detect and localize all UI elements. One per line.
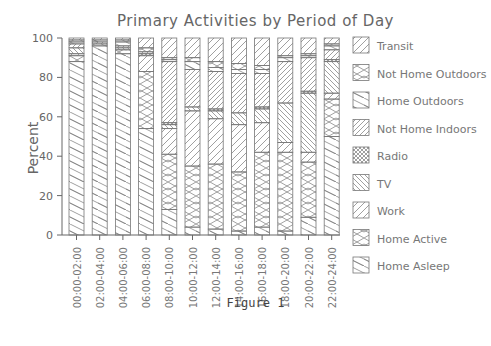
bar-segment xyxy=(231,172,246,231)
bar-segment xyxy=(255,152,270,227)
bar-segment xyxy=(162,38,177,58)
bar-segment xyxy=(162,154,177,209)
bar-00:00-02:00 xyxy=(69,38,84,235)
legend-item: Work xyxy=(353,202,405,218)
legend-item: Transit xyxy=(353,37,414,53)
bar-segment xyxy=(139,48,154,52)
bar-segment xyxy=(301,93,316,152)
bar-segment xyxy=(185,227,200,235)
bar-segment xyxy=(139,38,154,48)
legend-label: Home Outdoors xyxy=(377,95,464,108)
bar-segment xyxy=(185,107,200,111)
bar-segment xyxy=(208,62,223,68)
legend-item: Not Home Outdoors xyxy=(353,65,487,81)
bar-segment xyxy=(185,111,200,166)
bar-segment xyxy=(231,231,246,235)
y-tick-label: 20 xyxy=(39,190,53,203)
legend-swatch xyxy=(353,257,369,273)
bar-segment xyxy=(278,38,293,56)
bar-segment xyxy=(69,44,84,48)
bar-segment xyxy=(92,38,107,40)
bar-04:00-06:00 xyxy=(115,38,130,235)
bar-segment xyxy=(69,48,84,54)
bar-segment xyxy=(115,38,130,40)
bar-segment xyxy=(278,152,293,231)
legend-item: TV xyxy=(353,175,392,191)
bar-segment xyxy=(208,111,223,119)
bar-segment xyxy=(69,56,84,62)
legend-swatch xyxy=(353,92,369,108)
bar-segment xyxy=(324,99,339,136)
figure-caption: Figure 1 xyxy=(0,296,491,310)
bar-segment xyxy=(231,38,246,64)
bar-segment xyxy=(92,46,107,235)
legend-label: Work xyxy=(377,205,405,218)
bar-segment xyxy=(301,152,316,162)
bar-segment xyxy=(208,68,223,72)
bar-segment xyxy=(185,166,200,227)
bar-segment xyxy=(69,38,84,40)
bar-segment xyxy=(301,58,316,91)
legend-swatch xyxy=(353,202,369,218)
bar-segment xyxy=(185,38,200,58)
legend-item: Home Outdoors xyxy=(353,92,464,108)
bar-segment xyxy=(162,125,177,129)
legend-item: Home Asleep xyxy=(353,257,450,273)
bar-segment xyxy=(162,209,177,235)
bar-segment xyxy=(208,71,223,108)
legend-swatch xyxy=(353,175,369,191)
legend-swatch xyxy=(353,65,369,81)
plot-area: 02040608010000:00-02:0002:00-04:0004:00-… xyxy=(0,0,491,346)
bar-20:00-22:00 xyxy=(301,38,316,235)
bar-segment xyxy=(278,58,293,62)
legend-item: Not Home Indoors xyxy=(353,120,477,136)
bar-12:00-14:00 xyxy=(208,38,223,235)
bar-segment xyxy=(208,229,223,235)
bar-segment xyxy=(255,123,270,153)
bar-segment xyxy=(162,62,177,123)
y-tick-label: 0 xyxy=(46,229,53,242)
bar-segment xyxy=(231,70,246,74)
bar-segment xyxy=(255,70,270,74)
bar-segment xyxy=(115,42,130,46)
bar-16:00-18:00 xyxy=(255,38,270,235)
bar-segment xyxy=(324,46,339,50)
bar-segment xyxy=(301,38,316,54)
bar-segment xyxy=(278,142,293,152)
bar-segment xyxy=(324,137,339,236)
bar-segment xyxy=(231,113,246,125)
y-tick-label: 80 xyxy=(39,71,53,84)
legend-swatch xyxy=(353,120,369,136)
bar-segment xyxy=(278,103,293,142)
legend-label: Not Home Outdoors xyxy=(377,68,487,81)
y-tick-label: 60 xyxy=(39,111,53,124)
bar-segment xyxy=(231,125,246,172)
bar-segment xyxy=(231,64,246,70)
legend-item: Radio xyxy=(353,147,408,163)
bar-22:00-24:00 xyxy=(324,38,339,235)
legend-swatch xyxy=(353,37,369,53)
bar-06:00-08:00 xyxy=(139,38,154,235)
bar-segment xyxy=(301,162,316,217)
bar-segment xyxy=(208,164,223,229)
bar-segment xyxy=(324,50,339,60)
legend-label: Home Active xyxy=(377,233,447,246)
y-tick-label: 40 xyxy=(39,150,53,163)
bar-segment xyxy=(208,119,223,164)
legend-label: Not Home Indoors xyxy=(377,123,477,136)
bar-segment xyxy=(255,38,270,66)
legend-swatch xyxy=(353,147,369,163)
bar-segment xyxy=(278,62,293,103)
bar-segment xyxy=(162,129,177,155)
legend-item: Home Active xyxy=(353,230,447,246)
bar-segment xyxy=(324,62,339,94)
legend-label: Home Asleep xyxy=(377,260,450,273)
legend-label: Radio xyxy=(377,150,408,163)
bar-18:00-20:00 xyxy=(278,38,293,235)
bar-segment xyxy=(278,231,293,235)
bar-segment xyxy=(69,62,84,235)
bar-segment xyxy=(185,58,200,62)
bar-14:00-16:00 xyxy=(231,38,246,235)
bar-segment xyxy=(324,93,339,99)
bar-segment xyxy=(139,71,154,128)
